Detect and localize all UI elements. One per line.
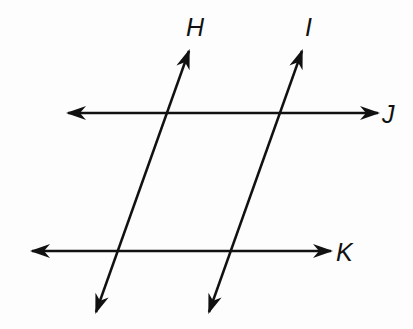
diagram-canvas: HIJK bbox=[0, 0, 413, 329]
label-k: K bbox=[336, 238, 354, 266]
label-j: J bbox=[381, 100, 395, 128]
line-i bbox=[209, 51, 302, 312]
label-h: H bbox=[186, 13, 205, 41]
lines-diagram: HIJK bbox=[0, 0, 413, 329]
line-h bbox=[96, 51, 189, 312]
label-i: I bbox=[305, 13, 312, 41]
